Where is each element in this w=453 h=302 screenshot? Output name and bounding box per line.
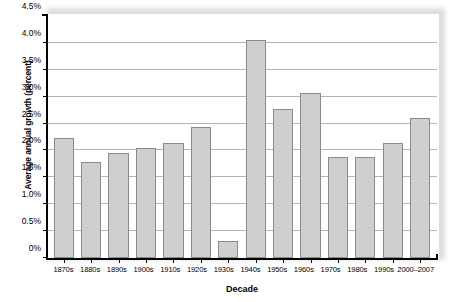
x-tick-slot [297,258,324,264]
x-tick-label: 1940s [237,265,264,274]
bar[interactable] [410,118,430,258]
x-tick-slot [242,258,269,264]
x-tick-label: 1990s [371,265,398,274]
x-tick-slot [379,258,406,264]
x-tick-slot [352,258,379,264]
x-tick-mark [64,258,65,263]
bar-series [47,16,437,258]
bar[interactable] [81,162,101,258]
x-tick-slot [324,258,351,264]
x-tick-slot [132,258,159,264]
x-tick-label: 1900s [130,265,157,274]
bar-slot [105,16,132,258]
bar[interactable] [383,143,403,258]
bar-slot [297,16,324,258]
y-tick-label: 3.0% [22,82,41,92]
x-tick-label: 1930s [210,265,237,274]
bar-slot [269,16,296,258]
x-axis-tick-labels: 1870s1880s1890s1900s1910s1920s1930s1940s… [47,265,437,274]
bar-slot [160,16,187,258]
bar-slot [50,16,77,258]
x-tick-mark [338,258,339,263]
x-tick-mark [256,258,257,263]
x-tick-label: 1950s [264,265,291,274]
x-tick-label: 1870s [50,265,77,274]
y-tick-label: 3.5% [22,55,41,65]
x-tick-slot [269,258,296,264]
y-tick-label: 1.5% [22,162,41,172]
x-tick-label: 1980s [344,265,371,274]
bar-slot [379,16,406,258]
y-tick-label: 4.5% [22,1,41,11]
x-tick-mark [146,258,147,263]
bar[interactable] [273,109,293,259]
x-axis-ticks [47,258,437,264]
x-tick-slot [50,258,77,264]
bar[interactable] [191,127,211,258]
bar[interactable] [136,148,156,258]
x-tick-mark [119,258,120,263]
bar[interactable] [355,157,375,258]
bar[interactable] [218,241,238,258]
plot-inner: 0%0.5%1.0%1.5%2.0%2.5%3.0%3.5%4.0%4.5% [47,16,437,258]
bar[interactable] [328,157,348,258]
x-tick-slot [105,258,132,264]
x-tick-mark [228,258,229,263]
x-tick-mark [365,258,366,263]
x-tick-slot [187,258,214,264]
bar-slot [406,16,433,258]
bar-slot [187,16,214,258]
bar-slot [77,16,104,258]
x-tick-label: 1890s [103,265,130,274]
x-axis-title: Decade [47,284,437,294]
y-tick-label: 0.5% [22,216,41,226]
x-tick-mark [173,258,174,263]
bar[interactable] [246,40,266,258]
x-tick-slot [406,258,433,264]
x-tick-label: 1970s [317,265,344,274]
bar-slot [215,16,242,258]
bar-slot [132,16,159,258]
x-tick-slot [215,258,242,264]
x-tick-mark [91,258,92,263]
bar-slot [324,16,351,258]
y-tick-label: 0% [29,243,41,253]
x-tick-label: 2000–2007 [397,265,434,274]
bar[interactable] [300,93,320,258]
y-axis-spine [46,14,48,258]
bar-slot [242,16,269,258]
chart-figure: Average annual growth (percent) 0%0.5%1.… [0,0,453,302]
y-axis-top-cap [42,14,47,16]
x-tick-label: 1910s [157,265,184,274]
x-tick-mark [393,258,394,263]
x-tick-label: 1920s [184,265,211,274]
y-tick-label: 2.5% [22,109,41,119]
x-tick-mark [201,258,202,263]
plot-area: 0%0.5%1.0%1.5%2.0%2.5%3.0%3.5%4.0%4.5% [47,16,437,258]
bar[interactable] [108,153,128,258]
bar[interactable] [163,143,183,258]
y-tick-label: 4.0% [22,28,41,38]
y-tick-label: 2.0% [22,135,41,145]
x-tick-label: 1960s [290,265,317,274]
x-tick-slot [77,258,104,264]
bar[interactable] [54,138,74,258]
y-tick-label: 1.0% [22,189,41,199]
x-tick-slot [160,258,187,264]
x-tick-label: 1880s [77,265,104,274]
bar-slot [352,16,379,258]
x-tick-mark [311,258,312,263]
x-tick-mark [283,258,284,263]
x-tick-mark [420,258,421,263]
